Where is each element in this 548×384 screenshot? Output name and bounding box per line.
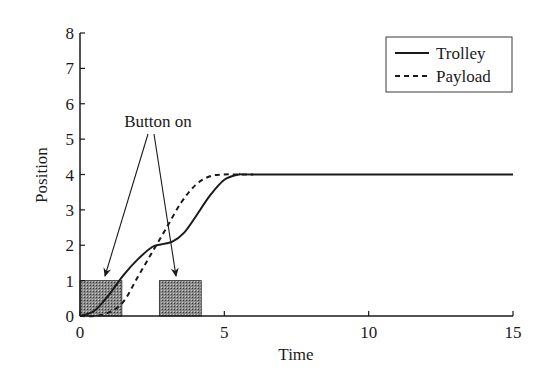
svg-text:Trolley: Trolley [436, 44, 486, 63]
button-on-regions [80, 281, 201, 316]
series-trolley [80, 174, 513, 316]
y-tick-label: 8 [66, 24, 75, 43]
button-on-region-2 [159, 281, 201, 316]
x-tick-label: 0 [76, 323, 85, 342]
x-axis: 051015 [76, 311, 522, 342]
button-on-annotation: Button on [105, 112, 192, 276]
y-tick-label: 7 [66, 59, 75, 78]
y-axis-label: Position [32, 147, 51, 203]
svg-text:Payload: Payload [436, 67, 491, 86]
x-tick-label: 10 [360, 323, 377, 342]
y-tick-label: 0 [66, 307, 75, 326]
y-axis: 012345678 [66, 24, 86, 326]
x-axis-label: Time [278, 345, 313, 364]
y-tick-label: 6 [66, 95, 75, 114]
y-tick-label: 5 [66, 130, 75, 149]
x-tick-label: 5 [220, 323, 229, 342]
y-tick-label: 4 [66, 166, 75, 185]
x-tick-label: 15 [505, 323, 522, 342]
series-lines [80, 174, 513, 316]
y-tick-label: 2 [66, 236, 75, 255]
annotation-text: Button on [124, 112, 192, 131]
y-tick-label: 1 [66, 272, 75, 291]
y-tick-label: 3 [66, 201, 75, 220]
chart-canvas: 012345678 051015 Time Position Button on… [0, 0, 548, 384]
legend: Trolley Payload [386, 37, 512, 92]
